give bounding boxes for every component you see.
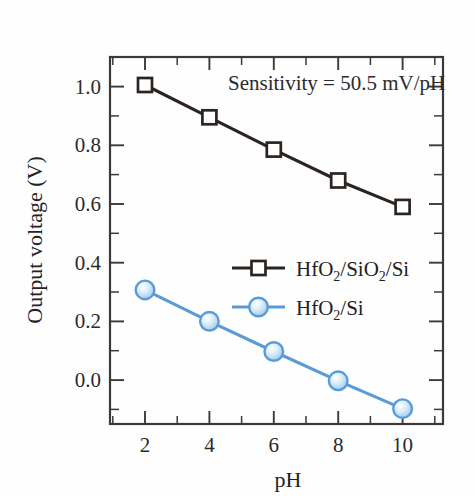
legend-label-hfo2-sio2-si: HfO2/SiO2/Si (296, 257, 409, 284)
y-tick-label-0.4: 0.4 (75, 251, 102, 275)
figure-container: 1.0 0.8 0.6 0.4 0.2 0.0 2 4 6 8 10 pH Ou… (0, 0, 475, 496)
data-point-marker (200, 312, 219, 331)
series-markers-hfo2-si (136, 281, 412, 418)
data-point-marker (393, 399, 412, 418)
legend-item-hfo2-si[interactable]: HfO2/Si (232, 296, 364, 323)
data-point-marker (138, 78, 152, 92)
data-point-marker (396, 200, 410, 214)
x-tick-label-4: 4 (204, 433, 215, 457)
y-tick-label-0.0: 0.0 (75, 368, 101, 392)
y-tick-label-0.6: 0.6 (75, 192, 101, 216)
x-axis-major-ticks (145, 57, 403, 424)
data-point-marker (265, 342, 284, 361)
legend-item-hfo2-sio2-si[interactable]: HfO2/SiO2/Si (232, 257, 409, 284)
x-axis-minor-ticks (113, 57, 435, 424)
plot-frame (110, 57, 443, 424)
legend-label-hfo2-si: HfO2/Si (296, 296, 364, 323)
x-tick-label-10: 10 (392, 433, 413, 457)
sensitivity-annotation: Sensitivity = 50.5 mV/pH (228, 71, 445, 95)
legend-marker-circle (249, 298, 268, 317)
x-tick-label-8: 8 (333, 433, 344, 457)
line-chart: 1.0 0.8 0.6 0.4 0.2 0.0 2 4 6 8 10 pH Ou… (0, 0, 475, 496)
y-axis-major-ticks (110, 87, 443, 381)
legend-marker-square (252, 261, 266, 275)
data-point-marker (331, 174, 345, 188)
x-tick-label-2: 2 (140, 433, 151, 457)
data-point-marker (267, 143, 281, 157)
y-tick-label-0.8: 0.8 (75, 133, 101, 157)
x-tick-label-6: 6 (269, 433, 280, 457)
data-point-marker (202, 110, 216, 124)
y-tick-label-0.2: 0.2 (75, 309, 101, 333)
y-tick-label-1.0: 1.0 (75, 75, 101, 99)
x-axis-title: pH (275, 467, 302, 492)
chart-legend: HfO2/SiO2/Si HfO2/Si (232, 257, 409, 323)
data-point-marker (329, 372, 348, 391)
y-axis-title: Output voltage (V) (22, 156, 47, 323)
data-point-marker (136, 281, 155, 300)
